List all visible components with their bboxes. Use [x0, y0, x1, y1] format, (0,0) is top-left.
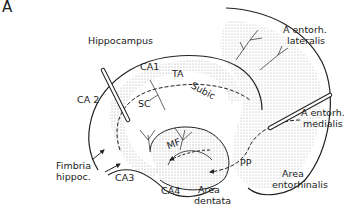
dentate-gyrus: [150, 127, 229, 190]
label-ca4: CA4: [161, 186, 180, 197]
label-area-dentata-2: dentata: [194, 196, 231, 207]
label-a-entorh-medialis: A entorh.: [301, 108, 345, 119]
label-ta: TA: [172, 69, 184, 80]
panel-label: A: [2, 2, 12, 13]
label-ca2: CA 2: [77, 95, 99, 106]
label-area-dentata: Area: [198, 185, 220, 196]
label-sc: SC: [138, 99, 151, 110]
label-fimbria: Fimbria: [56, 161, 91, 172]
label-ca3: CA3: [115, 173, 134, 184]
label-a-entorh-lateralis-2: lateralis: [287, 36, 325, 47]
label-hippocampus: Hippocampus: [88, 36, 153, 47]
label-ca1: CA1: [140, 62, 159, 73]
label-area-entorhinalis: Area: [282, 169, 304, 180]
label-area-entorhinalis-2: entorhinalis: [272, 180, 328, 191]
label-fimbria-2: hippoc.: [56, 172, 91, 183]
label-pp: PP: [240, 158, 251, 169]
fimbria-arrow: [92, 150, 104, 160]
label-a-entorh-lateralis: A entorh.: [283, 25, 327, 36]
label-a-entorh-medialis-2: medialis: [303, 119, 343, 130]
